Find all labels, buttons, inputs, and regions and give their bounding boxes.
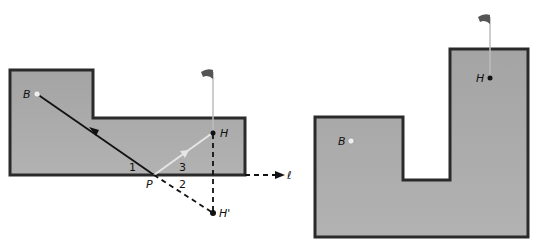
label-b-right: B <box>338 135 346 148</box>
left-figure: B H H' P ℓ 1 2 3 <box>10 69 292 220</box>
flag-icon <box>201 69 213 79</box>
label-b-left: B <box>23 88 31 101</box>
label-p: P <box>146 178 153 191</box>
label-angle-3: 3 <box>179 161 186 174</box>
label-h-right: H <box>476 72 484 85</box>
flag-icon <box>478 14 490 24</box>
left-green-shape <box>10 70 245 175</box>
ball-icon <box>34 91 40 97</box>
hole-icon <box>211 131 216 136</box>
diagram-canvas: B H H' P ℓ 1 2 3 B H <box>0 0 542 249</box>
line-l-arrow-icon <box>275 171 285 179</box>
label-line-l: ℓ <box>286 169 292 182</box>
label-angle-1: 1 <box>129 161 136 174</box>
right-green-shape <box>315 49 528 237</box>
label-h-left: H <box>220 127 228 140</box>
hole-reflection-icon <box>210 210 216 216</box>
right-figure: B H <box>315 14 528 237</box>
hole-icon <box>488 76 493 81</box>
label-angle-2: 2 <box>179 178 186 191</box>
ball-icon <box>348 138 354 144</box>
label-h-prime: H' <box>219 207 230 220</box>
